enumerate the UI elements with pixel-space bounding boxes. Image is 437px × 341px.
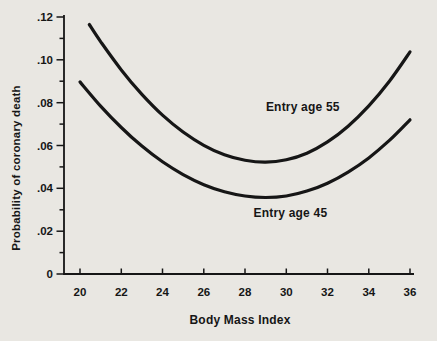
x-tick-label: 28	[239, 286, 252, 298]
x-tick-label: 24	[156, 286, 169, 298]
curve-entry-age-45	[80, 82, 410, 198]
x-tick-label: 20	[74, 286, 87, 298]
x-tick-label: 26	[197, 286, 210, 298]
coronary-death-line-chart: 0.02.04.06.08.10.12202224262830323436	[0, 0, 437, 341]
annotation-entry-age-55: Entry age 55	[266, 101, 340, 113]
y-tick-label: 0	[47, 268, 53, 280]
x-tick-label: 22	[115, 286, 128, 298]
x-tick-label: 30	[280, 286, 293, 298]
y-tick-label: .10	[37, 54, 53, 66]
x-tick-label: 32	[321, 286, 334, 298]
axes	[64, 15, 414, 274]
y-tick-label: .02	[37, 225, 53, 237]
y-tick-label: .08	[37, 97, 54, 109]
y-tick-label: .12	[37, 11, 53, 23]
figure: 0.02.04.06.08.10.12202224262830323436 Pr…	[0, 0, 437, 341]
y-axis-title: Probability of coronary death	[11, 85, 23, 251]
axis-spine	[64, 15, 414, 274]
x-tick-label: 36	[404, 286, 417, 298]
y-tick-label: .06	[37, 140, 53, 152]
annotation-entry-age-45: Entry age 45	[254, 207, 328, 219]
x-tick-label: 34	[362, 286, 375, 298]
y-tick-label: .04	[37, 182, 54, 194]
x-axis-title: Body Mass Index	[189, 314, 290, 326]
